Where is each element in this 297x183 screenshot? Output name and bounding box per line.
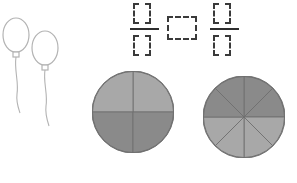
balloon-2-body [32, 31, 58, 65]
second-fraction-denominator-input[interactable] [213, 35, 231, 56]
answer-blanks-row [128, 2, 250, 58]
first-fraction-blank[interactable] [130, 2, 160, 58]
balloons-svg [0, 8, 70, 133]
circle-quarters-svg [92, 71, 174, 153]
first-fraction-denominator-input[interactable] [133, 35, 151, 56]
second-fraction-numerator-input[interactable] [213, 3, 231, 24]
balloon-1-string [16, 57, 20, 113]
comparison-symbol-input[interactable] [167, 16, 197, 40]
circle-eighths-svg [203, 76, 285, 158]
balloon-1-knot [13, 52, 19, 57]
first-fraction-bar [130, 28, 159, 30]
balloon-1-body [3, 18, 29, 52]
second-fraction-bar [210, 28, 239, 30]
circle-fraction-model-eighths [203, 76, 285, 158]
worksheet-page [0, 0, 297, 183]
balloons-illustration [0, 8, 70, 133]
balloon-2-knot [42, 65, 48, 70]
balloon-2-string [45, 70, 49, 126]
first-fraction-numerator-input[interactable] [133, 3, 151, 24]
second-fraction-blank[interactable] [210, 2, 240, 58]
circle-fraction-model-quarters [92, 71, 174, 153]
